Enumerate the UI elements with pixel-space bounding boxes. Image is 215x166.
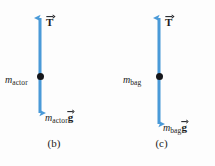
gravity-vector-symbol-c: g bbox=[181, 120, 187, 133]
tension-symbol-text-b: T bbox=[46, 16, 53, 28]
gravity-symbol-text-b: g bbox=[68, 111, 74, 123]
tension-vector-symbol-b: T bbox=[46, 15, 53, 28]
point-mass-dot-b bbox=[37, 73, 44, 80]
free-body-diagram-figure: T mactor mactorg (b) bbox=[0, 0, 215, 166]
tension-label-b: T bbox=[46, 13, 53, 29]
mass-subscript-b: actor bbox=[12, 78, 28, 87]
diagram-panel-c: T mbag mbagg (c) bbox=[108, 0, 215, 166]
point-mass-dot-c bbox=[156, 73, 163, 80]
panel-caption-c: (c) bbox=[108, 137, 215, 149]
weight-label-b: mactorg bbox=[45, 108, 73, 125]
diagram-panel-b: T mactor mactorg (b) bbox=[0, 0, 108, 166]
mass-label-c: mbag bbox=[123, 70, 141, 87]
tension-label-c: T bbox=[165, 13, 172, 29]
weight-label-c: mbagg bbox=[163, 118, 187, 135]
tension-symbol-text-c: T bbox=[165, 16, 172, 28]
mass-subscript-c: bag bbox=[130, 78, 141, 87]
mass-label-b: mactor bbox=[5, 70, 28, 87]
tension-vector-symbol-c: T bbox=[165, 15, 172, 28]
weight-mass-subscript-c: bag bbox=[170, 126, 181, 135]
gravity-symbol-text-c: g bbox=[181, 121, 187, 133]
weight-mass-subscript-b: actor bbox=[52, 116, 68, 125]
panel-caption-b: (b) bbox=[0, 137, 108, 149]
gravity-vector-symbol-b: g bbox=[68, 110, 74, 123]
